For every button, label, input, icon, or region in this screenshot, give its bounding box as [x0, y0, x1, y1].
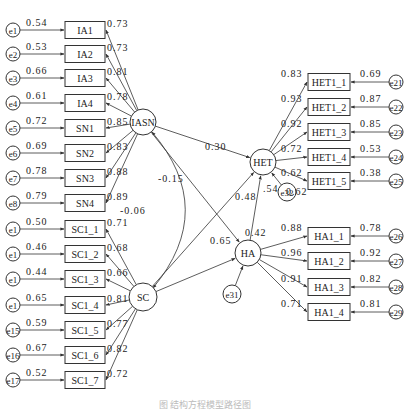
error-loading-value: 0.61 — [26, 90, 48, 101]
indicator-het1_5-label: HET1_5 — [312, 176, 346, 187]
indicator-ha1_3-label: HA1_3 — [314, 282, 343, 293]
disturbance-path-e31 — [235, 266, 243, 286]
factor-loading-value: 0.85 — [107, 116, 129, 127]
error-loading-value: 0.69 — [26, 140, 48, 151]
error-loading-value: 0.53 — [360, 143, 382, 154]
factor-loading-value: 0.72 — [281, 143, 303, 154]
factor-loading-value: 0.83 — [107, 141, 129, 152]
error-term-e11-label: e1 — [9, 275, 18, 285]
indicator-sn4-label: SN4 — [76, 198, 94, 209]
error-loading-value: 0.85 — [360, 118, 382, 129]
covariance-value: -0.06 — [120, 205, 146, 216]
error-loading-value: 0.53 — [26, 41, 48, 52]
error-term-e21-label: e21 — [390, 78, 403, 88]
indicator-sc1_6-label: SC1_6 — [71, 350, 98, 361]
error-loading-value: 0.69 — [360, 68, 382, 79]
error-term-e29-label: e29 — [390, 308, 403, 318]
error-term-e4-label: e4 — [9, 99, 18, 109]
error-loading-value: 0.67 — [26, 342, 48, 353]
error-loading-value: 0.92 — [360, 247, 382, 258]
error-term-e6-label: e6 — [9, 149, 18, 159]
error-loading-value: 0.66 — [26, 65, 48, 76]
factor-loading-value: 0.88 — [107, 166, 129, 177]
error-term-e25-label: e25 — [390, 177, 403, 187]
structural-path-sc-ha — [156, 258, 235, 291]
indicator-sn2-label: SN2 — [76, 148, 94, 159]
factor-loading-value: 0.88 — [281, 222, 303, 233]
indicator-ha1_2-label: HA1_2 — [314, 256, 343, 267]
latent-het-label: HET — [253, 157, 272, 168]
error-term-e5-label: e5 — [9, 124, 18, 134]
error-loading-value: 0.72 — [26, 115, 48, 126]
error-term-e13-label: e15 — [7, 326, 20, 336]
factor-loading-value: 0.72 — [107, 368, 129, 379]
error-loading-value: 0.65 — [26, 292, 48, 303]
error-loading-value: 0.78 — [26, 165, 48, 176]
factor-loading-value: 0.71 — [281, 298, 303, 309]
indicator-het1_3-label: HET1_3 — [312, 127, 346, 138]
latent-ha-label: HA — [241, 248, 256, 259]
factor-loading-value: 0.89 — [107, 191, 129, 202]
path-coefficient: 0.48 — [235, 191, 257, 202]
path-coefficient: 0.42 — [245, 227, 267, 238]
error-term-e9-label: e1 — [9, 225, 18, 235]
indicator-het1_2-label: HET1_2 — [312, 102, 346, 113]
loading-path — [276, 157, 307, 161]
loading-path — [106, 279, 130, 291]
loading-path — [106, 54, 137, 111]
indicator-sc1_5-label: SC1_5 — [71, 325, 98, 336]
figure-caption: 图 结构方程模型路径图 — [0, 398, 410, 411]
r-squared-value: .54 — [263, 183, 279, 194]
error-term-e24-label: e24 — [390, 153, 403, 163]
indicator-ha1_1-label: HA1_1 — [314, 231, 343, 242]
error-loading-value: 0.87 — [360, 93, 382, 104]
error-loading-value: 0.79 — [26, 190, 48, 201]
error-term-e22-label: e22 — [390, 103, 403, 113]
error-term-e3-label: e3 — [9, 74, 18, 84]
error-term-e15-label: e17 — [7, 376, 20, 386]
factor-loading-value: 0.83 — [281, 68, 303, 79]
path-coefficient: 0.30 — [205, 141, 227, 152]
error-loading-value: 0.81 — [360, 298, 382, 309]
indicator-sn3-label: SN3 — [76, 173, 94, 184]
latent-iasn-label: IASN — [131, 117, 154, 128]
indicator-ia2-label: IA2 — [77, 49, 93, 60]
error-loading-value: 0.78 — [360, 222, 382, 233]
factor-loading-value: 0.73 — [107, 18, 129, 29]
factor-loading-value: 0.62 — [281, 167, 303, 178]
error-term-e10-label: e1 — [9, 250, 18, 260]
factor-loading-value: 0.62 — [286, 186, 308, 197]
path-coefficient: 0.65 — [210, 235, 232, 246]
error-term-e28-label: e28 — [390, 283, 403, 293]
error-loading-value: 0.46 — [26, 241, 48, 252]
error-loading-value: 0.54 — [26, 17, 48, 28]
error-term-e26-label: e26 — [390, 232, 403, 242]
indicator-sc1_4-label: SC1_4 — [71, 300, 98, 311]
factor-loading-value: 0.73 — [107, 42, 129, 53]
structural-path-iasn-het — [155, 126, 249, 157]
disturbance-e31-label: e31 — [226, 290, 239, 300]
indicator-sc1_1-label: SC1_1 — [71, 224, 98, 235]
factor-loading-value: 0.92 — [281, 118, 303, 129]
error-loading-value: 0.59 — [26, 317, 48, 328]
error-term-e7-label: e7 — [9, 174, 18, 184]
error-loading-value: 0.52 — [26, 367, 48, 378]
factor-loading-value: 0.81 — [107, 66, 129, 77]
factor-loading-value: 0.82 — [107, 343, 129, 354]
factor-loading-value: 0.91 — [281, 273, 303, 284]
factor-loading-value: 0.78 — [107, 91, 129, 102]
indicator-sn1-label: SN1 — [76, 123, 94, 134]
indicator-sc1_2-label: SC1_2 — [71, 249, 98, 260]
factor-loading-value: 0.68 — [107, 242, 129, 253]
indicator-ha1_4-label: HA1_4 — [314, 307, 343, 318]
factor-loading-value: 0.81 — [107, 293, 129, 304]
latent-sc-label: SC — [137, 292, 150, 303]
error-loading-value: 0.50 — [26, 216, 48, 227]
indicator-ia4-label: IA4 — [77, 98, 93, 109]
indicator-sc1_3-label: SC1_3 — [71, 274, 98, 285]
factor-loading-value: 0.66 — [107, 267, 129, 278]
error-term-e2-label: e2 — [9, 50, 18, 60]
covariance-iasn-sc — [152, 132, 185, 288]
factor-loading-value: 0.77 — [107, 318, 129, 329]
